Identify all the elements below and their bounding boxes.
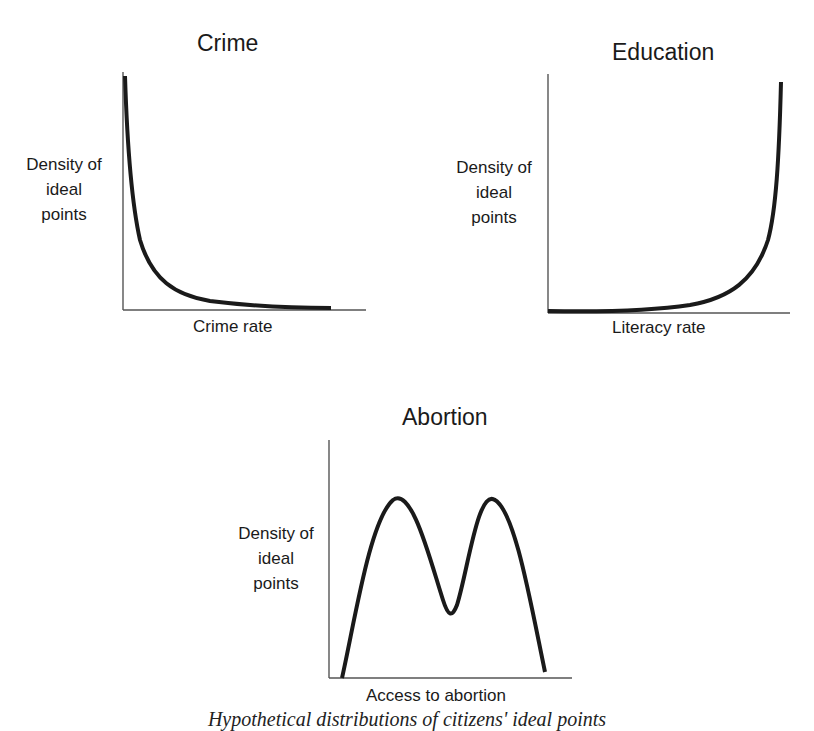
crime-density-curve (125, 76, 331, 308)
education-density-curve (548, 82, 781, 311)
figure-caption: Hypothetical distributions of citizens' … (0, 708, 814, 731)
education-axes (548, 74, 790, 313)
abortion-density-curve (342, 498, 545, 678)
abortion-axes (329, 440, 572, 678)
